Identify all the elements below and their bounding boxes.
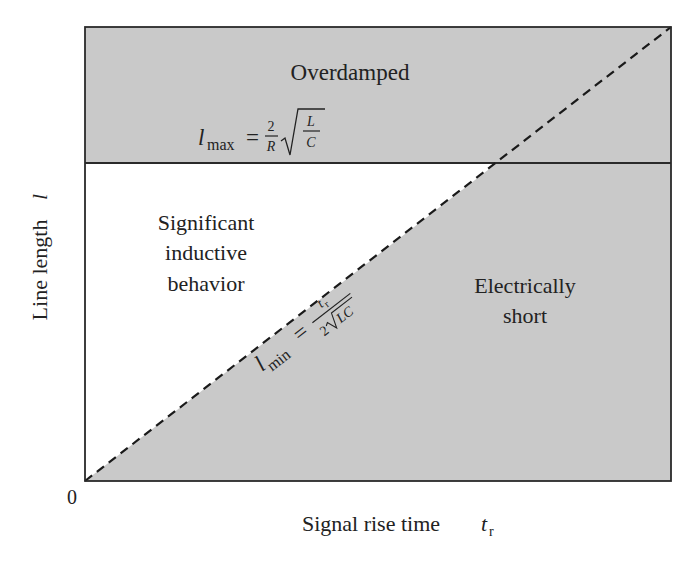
svg-text:r: r [489,524,494,539]
svg-text:max: max [207,136,235,153]
svg-text:Line length: Line length [27,220,52,321]
svg-text:t: t [481,511,488,536]
origin-label: 0 [67,486,77,508]
region-label-overdamped: Overdamped [291,60,410,85]
region-label-inductive: Significant inductive behavior [158,210,255,296]
svg-text:behavior: behavior [168,271,246,296]
svg-text:Significant: Significant [158,210,255,235]
diagram-canvas: Overdamped l max = 2 R L C Significant i… [0,0,698,569]
svg-text:l: l [198,125,204,150]
svg-text:=: = [246,125,259,150]
svg-text:l: l [27,194,52,200]
y-axis-label: Line length l [27,194,52,321]
svg-text:R: R [266,139,276,154]
svg-text:2: 2 [268,119,275,134]
svg-text:Signal rise time: Signal rise time [302,511,440,536]
svg-text:Electrically: Electrically [474,273,575,298]
svg-text:C: C [306,135,316,150]
x-axis-label: Signal rise time t r [302,511,494,539]
svg-text:inductive: inductive [165,240,247,265]
svg-text:L: L [306,114,315,129]
svg-text:short: short [503,303,547,328]
